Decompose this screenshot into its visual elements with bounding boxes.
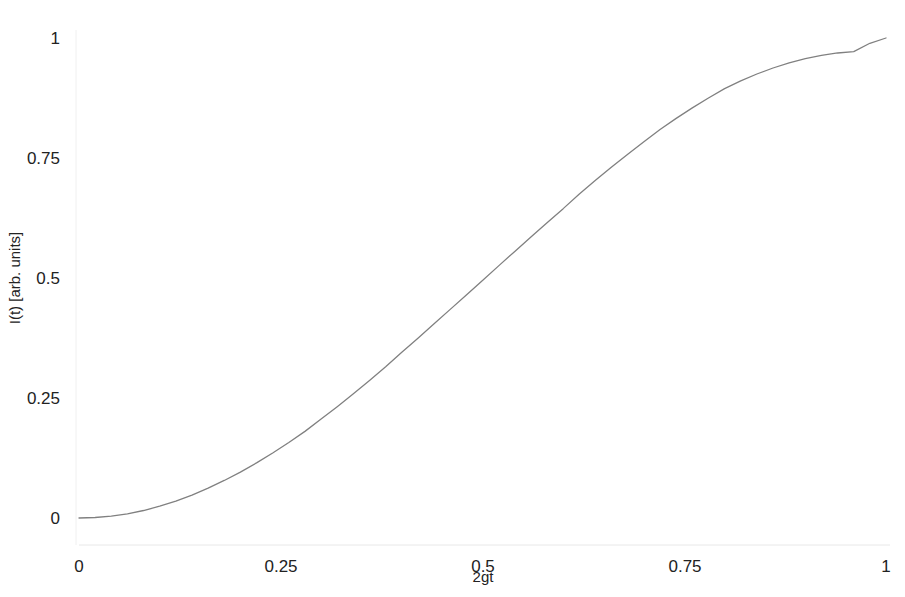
x-tick-label-075: 0.75 [668,558,701,575]
x-tick-label-1: 1 [881,558,890,575]
y-tick-label-0: 0 [2,510,60,527]
y-axis-title: I(t) [arb. units] [7,232,22,325]
x-axis-title: 2gt [473,569,494,584]
y-tick-label-1: 1 [2,30,60,47]
y-tick-label-025: 0.25 [2,390,60,407]
chart-figure: 1 0.75 0.5 0.25 0 0 0.25 0.5 0.75 1 2gt … [0,0,905,597]
x-tick-label-0: 0 [74,558,83,575]
plot-canvas [0,0,905,597]
data-series-line [79,38,886,518]
x-tick-label-025: 0.25 [264,558,297,575]
y-tick-label-075: 0.75 [2,150,60,167]
